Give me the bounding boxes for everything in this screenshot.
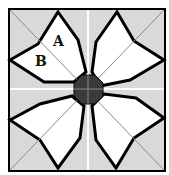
quilt-block-diagram: A B (0, 0, 169, 175)
label-a: A (52, 33, 65, 49)
label-b: B (35, 53, 47, 69)
